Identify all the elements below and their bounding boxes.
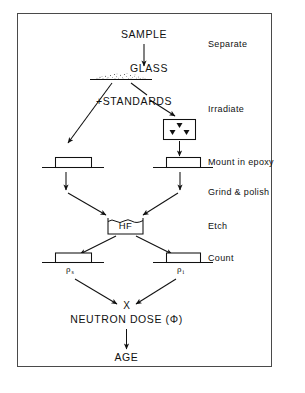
label-hf: HF (119, 220, 132, 231)
step-label-grind-and-polish: Grind & polish (208, 187, 269, 197)
arrow-glass-to-left-mount (68, 83, 112, 143)
svg-text:ρ: ρ (177, 264, 182, 274)
step-label-etch: Etch (208, 221, 227, 231)
step-label-mount-in-epoxy: Mount in epoxy (208, 157, 274, 167)
arrow-hf-to-right-count (136, 236, 172, 254)
label-glass: GLASS (130, 62, 168, 74)
arrow-right-to-hf (143, 193, 178, 215)
label-age: AGE (115, 351, 139, 363)
line-glass-to-standards (131, 83, 147, 95)
svg-text:ρ: ρ (66, 264, 71, 274)
arrow-rho-s-to-x (75, 279, 117, 304)
flowchart-svg: SAMPLE (0, 0, 305, 393)
neutron-triangles-icon (164, 120, 196, 140)
epoxy-mount-icon (42, 158, 104, 168)
epoxy-mount-icon (42, 253, 104, 263)
epoxy-mount-icon (153, 253, 213, 263)
step-label-irradiate: Irradiate (208, 104, 244, 114)
arrow-left-to-hf (68, 193, 106, 215)
label-rho-i: ρ i (177, 264, 185, 275)
step-label-count: Count (208, 253, 234, 263)
epoxy-mount-icon (153, 158, 213, 168)
label-neutron-dose: NEUTRON DOSE (Φ) (70, 313, 182, 325)
arrow-rho-i-to-x (136, 279, 176, 304)
label-sample: SAMPLE (121, 28, 167, 40)
label-standards: +STANDARDS (96, 95, 172, 107)
label-multiply: X (123, 300, 130, 311)
arrow-hf-to-left-count (80, 236, 116, 254)
diagram-canvas: SAMPLE (0, 0, 305, 393)
svg-text:i: i (183, 269, 185, 275)
svg-text:s: s (72, 269, 75, 275)
label-rho-s: ρ s (66, 264, 75, 275)
step-label-separate: Separate (208, 39, 247, 49)
